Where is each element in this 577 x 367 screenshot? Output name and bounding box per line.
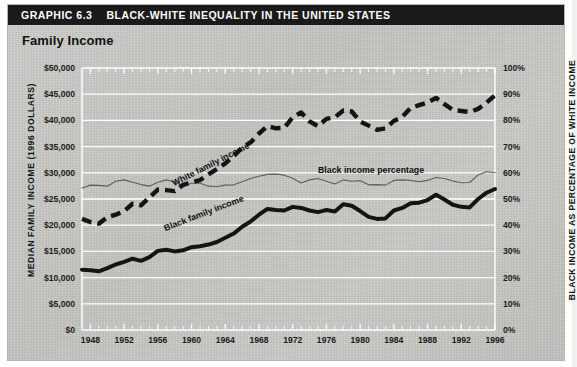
series-line-black-income-percentage	[82, 172, 495, 188]
series-line-white-family-income	[82, 95, 495, 223]
annotation-black-income-percentage: Black income percentage	[318, 165, 424, 175]
